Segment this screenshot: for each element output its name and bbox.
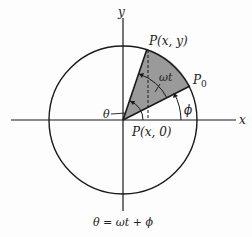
y-axis-label: y bbox=[117, 5, 125, 19]
circular-motion-diagram: y x P(x, y) P0 P(x, 0) ωt θ ϕ θ = ωt + ϕ bbox=[0, 0, 252, 237]
omega-t-label: ωt bbox=[159, 71, 173, 84]
point-p-x0-label: P(x, 0) bbox=[131, 125, 172, 139]
point-p0-label: P0 bbox=[192, 73, 207, 89]
theta-label: θ bbox=[103, 108, 110, 121]
phi-label: ϕ bbox=[184, 103, 192, 117]
theta-leader bbox=[111, 113, 126, 114]
diagram-canvas: y x P(x, y) P0 P(x, 0) ωt θ ϕ θ = ωt + ϕ bbox=[0, 0, 252, 237]
x-axis-label: x bbox=[239, 113, 246, 127]
point-p-xy-label: P(x, y) bbox=[148, 34, 188, 48]
equation-label: θ = ωt + ϕ bbox=[93, 216, 153, 229]
